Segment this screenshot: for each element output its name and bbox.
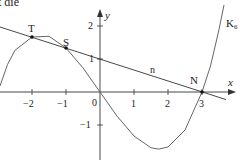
line-n <box>0 27 226 100</box>
curve-name: K <box>226 17 234 29</box>
x-tick-label-1: 1 <box>131 99 136 109</box>
y-tick-label-neg1: −1 <box>80 120 91 130</box>
point-t-label: T <box>28 23 35 34</box>
y-tick-label-2: 2 <box>88 21 93 31</box>
point-t-marker <box>30 35 34 39</box>
y-axis-arrow-icon <box>97 9 103 17</box>
line-n-label: n <box>150 65 155 75</box>
x-tick-label-3: 3 <box>199 99 204 109</box>
point-n-label: N <box>190 75 198 86</box>
point-n-marker <box>200 90 204 94</box>
x-axis-arrow-icon <box>228 89 236 95</box>
curve-subscript: 6 <box>234 23 238 31</box>
y-axis <box>97 9 103 160</box>
x-axis-label: x <box>228 77 233 88</box>
x-tick-label-neg1: −1 <box>57 99 68 109</box>
point-s-label: S <box>63 37 69 48</box>
x-tick-label-2: 2 <box>165 99 170 109</box>
y-axis-label: y <box>105 10 110 21</box>
function-graph <box>0 0 240 160</box>
curve-k6-label: K6 <box>226 18 237 31</box>
x-tick-label-neg2: −2 <box>23 99 34 109</box>
y-tick-label-1: 1 <box>89 54 94 64</box>
origin-label: 0 <box>92 98 97 108</box>
